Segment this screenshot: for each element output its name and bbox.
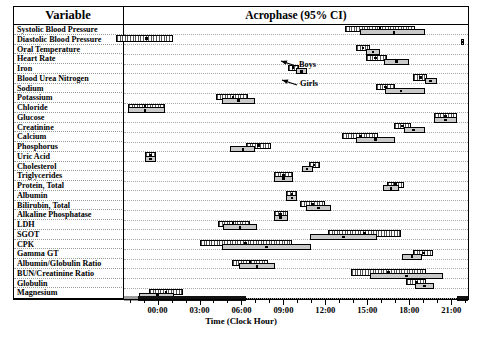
variable-label: Heart Rate (14, 54, 122, 64)
variable-label: Magnesium (14, 288, 122, 298)
acrophase-plot-area (124, 25, 468, 298)
variable-label: Triglycerides (14, 171, 122, 181)
gridline (124, 239, 468, 240)
variable-label: Alkaline Phosphatase (14, 210, 122, 220)
variable-label: Systolic Blood Pressure (14, 25, 122, 35)
axis-tick-minor (297, 299, 298, 303)
acrophase-marker-girls (423, 285, 426, 288)
axis-tick-minor (339, 299, 340, 303)
axis-tick-minor (130, 299, 131, 303)
annotation-girls: Girls (300, 79, 318, 88)
acrophase-marker-boys (419, 76, 422, 79)
acrophase-marker-girls (405, 275, 408, 278)
axis-tick-label: 12:00 (305, 305, 345, 315)
gridline (124, 112, 468, 113)
variable-label: BUN/Creatinine Ratio (14, 269, 122, 279)
variable-label: Glucose (14, 113, 122, 123)
variable-label-list: Systolic Blood PressureDiastolic Blood P… (14, 25, 122, 298)
gridline (124, 103, 468, 104)
acrophase-marker-girls (461, 41, 464, 44)
acrophase-figure: Variable Acrophase (95% CI) Systolic Blo… (0, 0, 482, 348)
axis-tick-minor (255, 299, 256, 303)
acrophase-marker-girls (306, 168, 309, 171)
acrophase-marker-girls (372, 51, 375, 54)
axis-tick-label: 06:00 (221, 305, 261, 315)
variable-label: Chloride (14, 103, 122, 113)
acrophase-marker-boys (292, 66, 295, 69)
x-axis-title: Time (Clock Hour) (13, 316, 469, 326)
variable-label: Calcium (14, 132, 122, 142)
axis-tick-minor (227, 299, 228, 303)
variable-label: Albumin/Globulin Ratio (14, 259, 122, 269)
variable-label: Protein, Total (14, 181, 122, 191)
variable-label: Phosphorus (14, 142, 122, 152)
variable-label: Bilirubin, Total (14, 201, 122, 211)
acrophase-marker-girls (393, 31, 396, 34)
acrophase-marker-girls (242, 148, 245, 151)
variable-label: Diastolic Blood Pressure (14, 35, 122, 45)
gridline (124, 171, 468, 172)
axis-tick-label: 21:00 (431, 305, 471, 315)
acrophase-marker-girls (149, 158, 152, 161)
acrophase-marker-girls (429, 80, 432, 83)
acrophase-marker-boys (422, 252, 425, 255)
gridline (124, 44, 468, 45)
gridline (124, 229, 468, 230)
acrophase-marker-girls (395, 60, 398, 63)
gridline (124, 181, 468, 182)
axis-tick-minor (311, 299, 312, 303)
axis-tick-label: 00:00 (138, 305, 178, 315)
axis-tick-minor (144, 299, 145, 303)
axis-tick-minor (213, 299, 214, 303)
acrophase-marker-girls (412, 129, 415, 132)
variable-label: Iron (14, 64, 122, 74)
variable-label: Creatinine (14, 123, 122, 133)
variable-label: LDH (14, 220, 122, 230)
gridline (124, 220, 468, 221)
acrophase-marker-girls (400, 90, 403, 93)
gridline (124, 210, 468, 211)
acrophase-marker-girls (411, 255, 414, 258)
axis-tick-minor (395, 299, 396, 303)
acrophase-marker-boys (145, 37, 148, 40)
acrophase-marker-boys (362, 47, 365, 50)
variable-label: Oral Temperature (14, 45, 122, 55)
variable-label: Globulin (14, 279, 122, 289)
acrophase-marker-girls (390, 187, 393, 190)
axis-tick-minor (353, 299, 354, 303)
axis-tick-minor (437, 299, 438, 303)
variable-label: Blood Urea Nitrogen (14, 74, 122, 84)
gridline (124, 161, 468, 162)
axis-tick-label: 15:00 (347, 305, 387, 315)
acrophase-marker-girls (265, 246, 268, 249)
acrophase-marker-girls (256, 265, 259, 268)
gridline (124, 83, 468, 84)
ci-bar-girls (385, 88, 424, 94)
axis-tick-label: 18:00 (389, 305, 429, 315)
acrophase-marker-girls (239, 226, 242, 229)
ci-bar-girls (128, 107, 164, 113)
variable-label: Gamma GT (14, 249, 122, 259)
axis-tick-minor (186, 299, 187, 303)
variable-label: Potassium (14, 93, 122, 103)
acrophase-marker-girls (237, 99, 240, 102)
acrophase-marker-girls (279, 216, 282, 219)
acrophase-marker-girls (374, 138, 377, 141)
variable-label: Albumin (14, 191, 122, 201)
axis-tick-label: 09:00 (263, 305, 303, 315)
axis-tick-minor (381, 299, 382, 303)
axis-tick-minor (465, 299, 466, 303)
axis-tick-label: 03:00 (180, 305, 220, 315)
axis-tick-minor (423, 299, 424, 303)
acrophase-marker-girls (282, 177, 285, 180)
gridline (124, 54, 468, 55)
variable-label: Sodium (14, 84, 122, 94)
acrophase-marker-boys (313, 164, 316, 167)
variable-label: SGOT (14, 230, 122, 240)
axis-tick-minor (172, 299, 173, 303)
gridline (124, 151, 468, 152)
variable-column-header: Variable (13, 7, 123, 24)
acrophase-marker-girls (144, 109, 147, 112)
gridline (124, 142, 468, 143)
gridline (124, 122, 468, 123)
